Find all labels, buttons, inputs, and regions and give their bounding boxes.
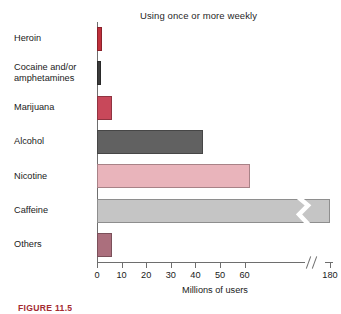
axis-break-icon (303, 256, 325, 270)
bar-caffeine (97, 199, 330, 223)
x-axis-title: Millions of users (97, 285, 333, 295)
category-label-heroin: Heroin (14, 33, 94, 45)
category-label-others: Others (14, 239, 94, 251)
category-label-marijuana: Marijuana (14, 102, 94, 114)
x-tick-label-20: 20 (141, 270, 151, 280)
x-tick-label-50: 50 (215, 270, 225, 280)
bar-fill (97, 130, 203, 154)
bar-cocaine-and-or-amphetamines (97, 61, 101, 85)
x-tick-label-60: 60 (239, 270, 249, 280)
x-tick-30 (171, 262, 172, 268)
x-tick-label-40: 40 (190, 270, 200, 280)
bar-fill (97, 233, 112, 257)
x-tick-label-10: 10 (116, 270, 126, 280)
chart-title: Using once or more weekly (140, 10, 257, 21)
bar-fill (97, 199, 330, 223)
category-label-caffeine: Caffeine (14, 205, 94, 217)
bar-marijuana (97, 96, 112, 120)
x-tick-180 (330, 262, 331, 268)
x-tick-50 (220, 262, 221, 268)
bar-fill (97, 61, 101, 85)
bar-alcohol (97, 130, 203, 154)
bar-fill (97, 96, 112, 120)
x-tick-label-30: 30 (166, 270, 176, 280)
x-tick-60 (245, 262, 246, 268)
x-tick-label-0: 0 (94, 270, 99, 280)
x-tick-20 (146, 262, 147, 268)
figure-caption: FIGURE 11.5 (18, 303, 72, 314)
x-tick-10 (122, 262, 123, 268)
x-tick-0 (97, 262, 98, 268)
category-label-cocaine-and-or-amphetamines: Cocaine and/or amphetamines (14, 62, 94, 85)
category-label-nicotine: Nicotine (14, 171, 94, 183)
x-tick-40 (195, 262, 196, 268)
bar-fill (97, 164, 250, 188)
x-axis-line (97, 262, 333, 263)
bar-nicotine (97, 164, 250, 188)
figure-container: Using once or more weekly HeroinCocaine … (0, 0, 341, 314)
x-tick-label-180: 180 (322, 270, 337, 280)
bar-others (97, 233, 112, 257)
category-label-alcohol: Alcohol (14, 136, 94, 148)
bar-fill (97, 27, 102, 51)
bar-heroin (97, 27, 102, 51)
